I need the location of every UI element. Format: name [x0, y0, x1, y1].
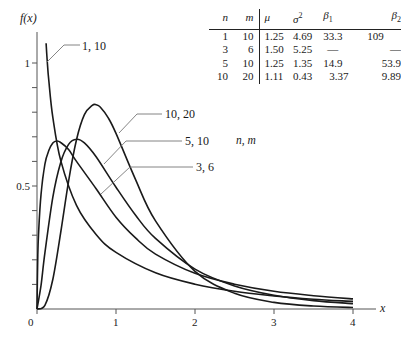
cell-beta2: 53.9 — [359, 57, 401, 71]
x-tick-label: 3 — [271, 316, 277, 328]
leader-10-20 — [119, 114, 162, 133]
cell-mu: 1.25 — [259, 29, 293, 43]
cell-beta2: — — [359, 43, 401, 57]
leader-3-6 — [101, 167, 193, 194]
cell-mu: 1.25 — [259, 57, 293, 71]
header-m: m — [230, 9, 259, 29]
curve-label-5-10: 5, 10 — [185, 134, 209, 148]
cell-beta1: 3.37 — [323, 70, 359, 84]
cell-m: 6 — [230, 43, 259, 57]
cell-n: 10 — [209, 70, 230, 84]
x-tick-label: 4 — [350, 316, 356, 328]
curve-label-10-20: 10, 20 — [165, 107, 195, 121]
cell-beta1: 33.3 — [323, 29, 359, 43]
cell-n: 5 — [209, 57, 230, 71]
header-sigma2: σ2 — [293, 9, 323, 29]
cell-n: 1 — [209, 29, 230, 43]
header-n: n — [209, 9, 230, 29]
cell-beta2: 9.89 — [359, 70, 401, 84]
cell-sigma2: 4.69 — [293, 29, 323, 43]
curve-label-3-6: 3, 6 — [196, 160, 214, 174]
cell-sigma2: 0.43 — [293, 70, 323, 84]
header-beta2: β2 — [359, 9, 401, 29]
header-beta1: β1 — [323, 9, 359, 29]
table-row: 5 10 1.25 1.35 14.9 53.9 — [209, 57, 401, 71]
table-row: 1 10 1.25 4.69 33.3 109 — [209, 29, 401, 43]
curve-label-1-10: 1, 10 — [82, 39, 106, 53]
header-mu: μ — [259, 9, 293, 29]
cell-sigma2: 1.35 — [293, 57, 323, 71]
x-tick-label: 2 — [192, 316, 198, 328]
cell-sigma2: 5.25 — [293, 43, 323, 57]
moments-table: n m μ σ2 β1 β2 1 10 1.25 4.69 33.3 109 3… — [209, 9, 401, 84]
x-tick-label: 0 — [28, 316, 34, 328]
cell-m: 20 — [230, 70, 259, 84]
y-tick-label: 0.5 — [16, 180, 30, 192]
table-row: 10 20 1.11 0.43 3.37 9.89 — [209, 70, 401, 84]
y-axis-label: f(x) — [20, 11, 37, 25]
cell-n: 3 — [209, 43, 230, 57]
x-tick-label: 1 — [113, 316, 119, 328]
cell-beta2: 109 — [359, 29, 401, 43]
cell-mu: 1.11 — [259, 70, 293, 84]
table-row: 3 6 1.50 5.25 — — — [209, 43, 401, 57]
leader-5-10 — [104, 141, 182, 164]
cell-m: 10 — [230, 29, 259, 43]
cell-beta1: 14.9 — [323, 57, 359, 71]
x-axis-label: x — [379, 301, 386, 315]
leader-1-10 — [47, 45, 80, 62]
legend-title: n, m — [236, 134, 256, 147]
table-header-row: n m μ σ2 β1 β2 — [209, 9, 401, 29]
cell-mu: 1.50 — [259, 43, 293, 57]
cell-beta1: — — [323, 43, 359, 57]
cell-m: 10 — [230, 57, 259, 71]
y-tick-label: 1 — [25, 57, 31, 69]
